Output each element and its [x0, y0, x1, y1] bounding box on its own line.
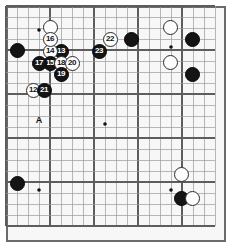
go-board-diagram: 121314151617181920212223 A [0, 0, 232, 249]
board-frame [6, 6, 226, 242]
